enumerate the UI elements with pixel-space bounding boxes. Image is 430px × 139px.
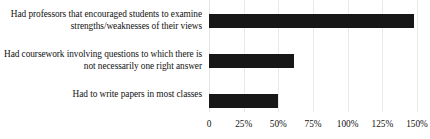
x-tick-label-3: 75%	[304, 118, 321, 130]
x-tick-label-0: 0	[207, 118, 212, 130]
bar-1	[209, 54, 294, 68]
category-label-0: Had professors that encouraged students …	[2, 9, 202, 32]
bar-0	[209, 14, 414, 28]
horizontal-bar-chart: Had professors that encouraged students …	[0, 0, 430, 139]
category-label-2: Had to write papers in most classes	[2, 89, 202, 101]
x-tick-label-2: 50%	[270, 118, 287, 130]
gridline-150	[417, 0, 418, 112]
x-tick-label-5: 125%	[371, 118, 393, 130]
bar-series	[209, 0, 417, 112]
bar-2	[209, 94, 278, 108]
x-axis: 025%50%75%100%125%150%	[209, 112, 417, 139]
plot-area	[209, 0, 417, 112]
x-tick-label-6: 150%	[406, 118, 428, 130]
category-label-column: Had professors that encouraged students …	[0, 0, 206, 112]
x-tick-label-1: 25%	[235, 118, 252, 130]
x-tick-label-4: 100%	[337, 118, 359, 130]
category-label-1: Had coursework involving questions to wh…	[2, 49, 202, 72]
